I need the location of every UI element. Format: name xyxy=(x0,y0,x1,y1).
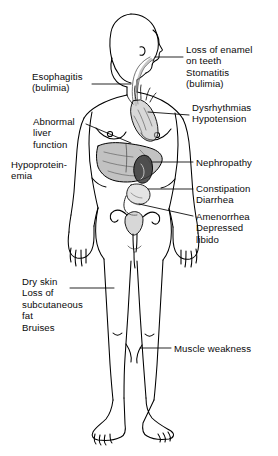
label-dysrhythmias: Dysrhythmias Hypotension xyxy=(192,102,251,125)
label-nephropathy: Nephropathy xyxy=(196,157,252,168)
diagram-canvas: Loss of enamel on teeth Stomatitis (buli… xyxy=(0,0,278,456)
feet-outline xyxy=(92,398,173,445)
label-esophagitis: Esophagitis (bulimia) xyxy=(32,71,83,94)
label-constipation: Constipation Diarrhea xyxy=(196,183,250,206)
label-loss-of-enamel: Loss of enamel on teeth Stomatitis (buli… xyxy=(186,44,252,90)
label-muscle-weakness: Muscle weakness xyxy=(174,343,251,354)
label-abnormal-liver: Abnormal liver function xyxy=(33,116,75,150)
label-amenorrhea: Amenorrhea Depressed libido xyxy=(196,211,250,245)
right-arm-and-hand xyxy=(169,209,199,267)
breast-contours xyxy=(96,128,171,140)
uterus-organ xyxy=(110,210,159,268)
label-hypoproteinemia: Hypoprotein- emia xyxy=(11,159,67,182)
legs-outline xyxy=(104,259,163,400)
pelvis-hint xyxy=(128,246,141,249)
intestine-organ xyxy=(124,184,150,215)
kidney-organ xyxy=(134,155,153,183)
label-dry-skin: Dry skin Loss of subcutaneous fat Bruise… xyxy=(22,276,83,333)
left-arm-and-hand xyxy=(68,208,98,266)
leader-abnormal-liver xyxy=(86,124,131,143)
